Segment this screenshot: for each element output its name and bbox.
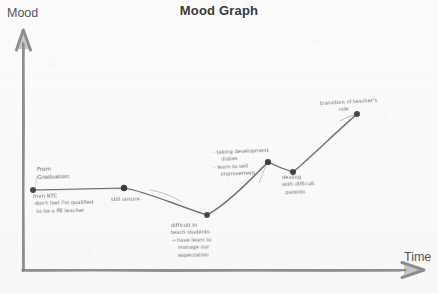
data-point-2[interactable] xyxy=(204,212,210,218)
x-axis xyxy=(23,269,405,271)
chart-canvas xyxy=(0,0,438,293)
y-axis-arrow-icon xyxy=(17,30,31,50)
annotation-difficult-parents: dealing with difficult parents xyxy=(282,173,315,196)
x-axis-arrow-icon xyxy=(402,263,424,278)
mood-graph-sheet: Mood Graph Mood Time xyxy=(0,0,438,293)
data-point-1[interactable] xyxy=(121,185,127,191)
annotation-taking-development-duties: - taking development duties - learn to s… xyxy=(213,147,270,179)
annotation-from-ntc: from NTC -don't feel I'm qualified to be… xyxy=(33,192,94,215)
annotation-transition-of-teachers-role: transition of teacher's role xyxy=(320,97,378,115)
annotation-difficult-teach-students: difficult to teach students → have learn… xyxy=(171,221,212,259)
annotation-from-graduation: From Graduation xyxy=(37,164,69,181)
y-axis xyxy=(22,44,24,270)
annotation-still-unsure: still unsure xyxy=(111,196,140,204)
